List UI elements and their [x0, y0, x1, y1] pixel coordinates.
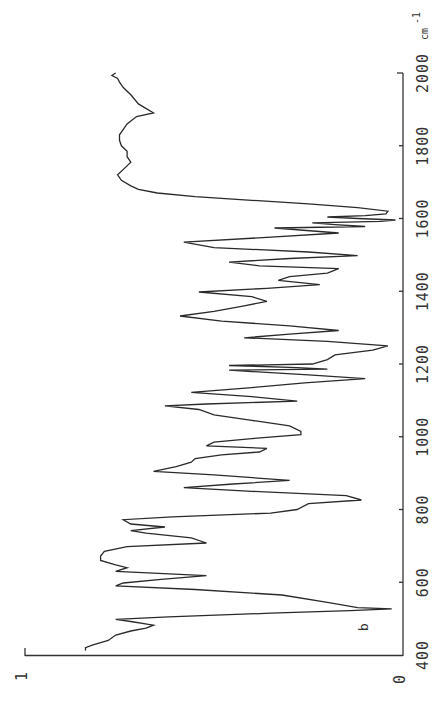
wavenumber-tick-label-group: 1200: [414, 344, 432, 384]
wavenumber-tick-labels: 400600800100012001400160018002000: [414, 53, 432, 670]
transmittance-one-label: 1: [13, 671, 31, 681]
wavenumber-tick-label-group: 400: [414, 640, 432, 670]
wavenumber-tick-label-group: 1800: [414, 126, 432, 166]
spectrum-line: [86, 73, 396, 651]
unit-exponent: -1: [411, 12, 422, 24]
wavenumber-tick-label-group: 2000: [414, 53, 432, 93]
unit-base: cm: [419, 28, 430, 40]
wavenumber-tick-label-group: 1400: [414, 271, 432, 311]
transmittance-zero-label: 0: [391, 674, 409, 684]
wavenumber-tick-label: 400: [414, 640, 432, 670]
wavenumber-tick-label: 2000: [414, 53, 432, 93]
wavenumber-tick-label-group: 600: [414, 567, 432, 597]
wavenumber-tick-label: 600: [414, 567, 432, 597]
wavenumber-tick-label: 800: [414, 494, 432, 524]
wavenumber-tick-label-group: 1000: [414, 417, 432, 457]
panel-label-group: b: [357, 623, 371, 631]
wavenumber-tick-label: 1000: [414, 417, 432, 457]
transmittance-one-label-group: 1: [13, 671, 31, 681]
transmittance-zero-label-group: 0: [391, 674, 409, 684]
wavenumber-tick-label-group: 800: [414, 494, 432, 524]
wavenumber-tick-label: 1400: [414, 271, 432, 311]
wavenumber-tick-label-group: 1600: [414, 198, 432, 238]
ir-spectrum-chart: 400600800100012001400160018002000 cm -1 …: [0, 0, 443, 709]
wavenumber-tick-label: 1200: [414, 344, 432, 384]
wavenumber-unit-label: cm -1: [411, 12, 430, 40]
wavenumber-tick-label: 1600: [414, 198, 432, 238]
wavenumber-tick-label: 1800: [414, 126, 432, 166]
panel-label: b: [357, 623, 371, 631]
